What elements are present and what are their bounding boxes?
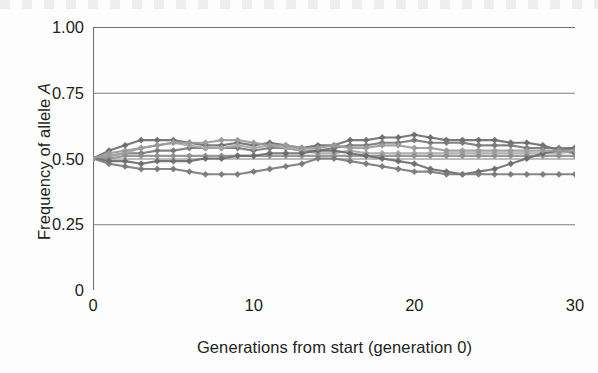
data-point-marker: [138, 145, 145, 152]
data-point-marker: [523, 171, 530, 178]
data-point-marker: [507, 160, 514, 167]
y-tick-label: 0.50: [24, 151, 84, 168]
data-point-marker: [170, 166, 177, 173]
scan-artifact: [0, 0, 598, 9]
data-point-marker: [427, 145, 434, 152]
data-point-marker: [186, 168, 193, 175]
x-tick-label: 10: [224, 297, 284, 314]
x-tick-label: 30: [545, 297, 598, 314]
data-point-marker: [459, 171, 466, 178]
data-point-marker: [298, 160, 305, 167]
data-point-marker: [266, 166, 273, 173]
data-point-marker: [379, 163, 386, 170]
x-axis-title: Generations from start (generation 0): [93, 338, 576, 357]
data-point-marker: [411, 160, 418, 167]
data-point-marker: [395, 166, 402, 173]
data-point-marker: [234, 171, 241, 178]
y-tick-label: 0.75: [24, 85, 84, 102]
y-tick-labels: 00.250.500.751.00: [22, 0, 84, 373]
data-point-marker: [539, 171, 546, 178]
data-point-marker: [250, 168, 257, 175]
data-point-marker: [218, 171, 225, 178]
x-tick-label: 20: [384, 297, 444, 314]
data-point-marker: [282, 163, 289, 170]
data-point-marker: [411, 137, 418, 144]
data-point-marker: [138, 137, 145, 144]
data-point-marker: [122, 163, 129, 170]
data-point-marker: [234, 152, 241, 159]
data-point-marker: [363, 160, 370, 167]
data-point-marker: [556, 171, 563, 178]
x-tick-label: 0: [63, 297, 123, 314]
y-tick-label: 1.00: [24, 19, 84, 36]
plot-area: [93, 27, 575, 290]
data-point-marker: [491, 171, 498, 178]
data-point-marker: [507, 171, 514, 178]
data-point-marker: [411, 145, 418, 152]
data-point-marker: [218, 137, 225, 144]
chart-svg: [93, 27, 575, 290]
data-point-marker: [138, 166, 145, 173]
chart-figure: Frequency of allele A 00.250.500.751.00 …: [0, 0, 598, 373]
y-tick-label: 0.25: [24, 216, 84, 233]
data-point-marker: [411, 168, 418, 175]
data-point-marker: [250, 152, 257, 159]
data-point-marker: [572, 171, 575, 178]
data-point-marker: [154, 142, 161, 149]
data-point-marker: [202, 171, 209, 178]
data-point-marker: [154, 166, 161, 173]
